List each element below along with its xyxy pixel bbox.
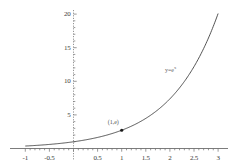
- annotation-point-label: (1,e): [108, 119, 119, 125]
- y-axis-ticks: [74, 14, 77, 142]
- x-tick-label: 2.5: [190, 154, 198, 162]
- y-tick-label: 15: [58, 44, 71, 52]
- y-tick-label: 20: [58, 10, 71, 18]
- x-tick-label: 3: [216, 154, 219, 162]
- x-tick-label: -1: [23, 154, 28, 162]
- plot-canvas: [0, 0, 236, 166]
- x-tick-label: 0.5: [94, 154, 102, 162]
- exponential-curve: [25, 14, 218, 147]
- x-tick-label: 2: [168, 154, 171, 162]
- exponential-function-plot: -1-0.50.511.522.53 5101520 (1,e) y=ex: [0, 0, 236, 166]
- x-tick-label: 1.5: [142, 154, 150, 162]
- annotation-point-marker: [120, 129, 123, 132]
- curve-equation-exponent: x: [174, 65, 176, 70]
- curve-equation-base: y=e: [165, 67, 174, 73]
- x-axis-ticks: [25, 149, 218, 152]
- x-tick-label: 1: [120, 154, 123, 162]
- curve-equation-label: y=ex: [165, 65, 176, 73]
- x-tick-label: -0.5: [44, 154, 54, 162]
- y-tick-label: 10: [58, 77, 71, 85]
- y-tick-label: 5: [58, 111, 71, 119]
